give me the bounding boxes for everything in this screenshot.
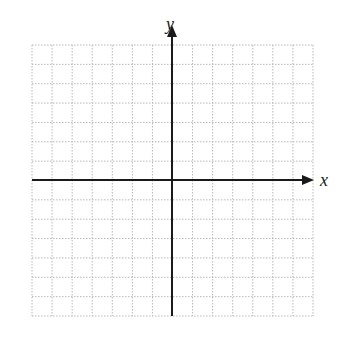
coordinate-plane: x y	[0, 0, 346, 339]
x-axis-label: x	[319, 170, 328, 190]
x-axis-arrow-icon	[302, 175, 314, 185]
y-axis-label: y	[164, 14, 174, 34]
